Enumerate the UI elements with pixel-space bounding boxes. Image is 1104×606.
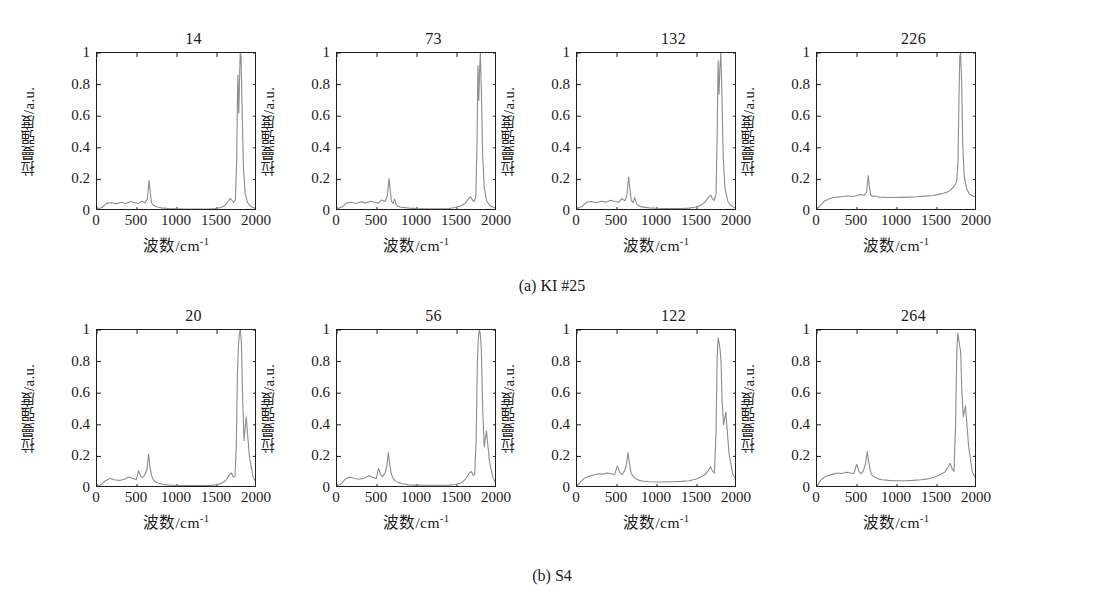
figure-row-a: 14拉曼强度/a.u.10.80.60.40.20050010001500200…	[0, 28, 1104, 276]
spectrum-trace	[337, 53, 496, 209]
x-tick-group: 0500100015002000	[816, 489, 976, 509]
y-tick-label: 0.2	[526, 171, 570, 186]
x-axis-label-exponent: -1	[680, 236, 690, 247]
x-tick-group: 0500100015002000	[336, 489, 496, 509]
tick-marks	[577, 53, 736, 210]
y-tick-label: 0.4	[526, 416, 570, 431]
y-tick-label: 0.8	[766, 76, 810, 91]
y-axis-label: 拉曼强度/a.u.	[740, 329, 758, 487]
x-axis-label-exponent: -1	[920, 513, 930, 524]
x-axis-label-text: 波数/cm	[143, 237, 200, 254]
raman-spectra-figure: 14拉曼强度/a.u.10.80.60.40.20050010001500200…	[0, 0, 1104, 606]
y-tick-label: 1	[766, 45, 810, 60]
tick-marks	[97, 53, 256, 210]
x-axis-label-exponent: -1	[440, 236, 450, 247]
spectrum-panel: 20拉曼强度/a.u.10.80.60.40.20050010001500200…	[18, 305, 268, 553]
y-tick-label: 0.6	[526, 385, 570, 400]
y-tick-label: 1	[286, 322, 330, 337]
x-axis-label: 波数/cm-1	[306, 513, 526, 533]
y-tick-group: 10.80.60.40.20	[278, 52, 330, 210]
y-axis-label: 拉曼强度/a.u.	[260, 52, 278, 210]
x-tick-group: 0500100015002000	[576, 212, 736, 232]
panel-title: 226	[816, 30, 1011, 48]
x-axis-label: 波数/cm-1	[786, 513, 1006, 533]
panel-title: 264	[816, 307, 1011, 325]
plot-area	[96, 52, 256, 210]
spectrum-trace	[577, 338, 736, 487]
y-tick-label: 0.8	[286, 76, 330, 91]
spectrum-plot	[337, 330, 496, 487]
y-tick-group: 10.80.60.40.20	[38, 52, 90, 210]
tick-marks	[577, 330, 736, 487]
x-tick-group: 0500100015002000	[576, 489, 736, 509]
y-tick-group: 10.80.60.40.20	[518, 329, 570, 487]
x-axis-label-exponent: -1	[200, 236, 210, 247]
y-tick-label: 0.6	[46, 385, 90, 400]
y-tick-label: 0.6	[286, 108, 330, 123]
plot-area	[576, 329, 736, 487]
x-tick-group: 0500100015002000	[96, 489, 256, 509]
spectrum-plot	[577, 330, 736, 487]
y-tick-label: 0.2	[286, 171, 330, 186]
spectrum-trace	[577, 53, 736, 209]
y-tick-group: 10.80.60.40.20	[38, 329, 90, 487]
spectrum-panel: 14拉曼强度/a.u.10.80.60.40.20050010001500200…	[18, 28, 268, 276]
plot-area	[576, 52, 736, 210]
spectrum-panel: 226拉曼强度/a.u.10.80.60.40.2005001000150020…	[738, 28, 988, 276]
tick-marks	[817, 53, 976, 210]
x-axis-label: 波数/cm-1	[546, 236, 766, 256]
spectrum-trace	[817, 53, 976, 209]
figure-row-b: 20拉曼强度/a.u.10.80.60.40.20050010001500200…	[0, 305, 1104, 553]
x-axis-label-exponent: -1	[920, 236, 930, 247]
spectrum-trace	[97, 53, 256, 209]
x-axis-label-exponent: -1	[200, 513, 210, 524]
spectrum-plot	[817, 53, 976, 210]
spectrum-panel: 264拉曼强度/a.u.10.80.60.40.2005001000150020…	[738, 305, 988, 553]
x-tick-group: 0500100015002000	[816, 212, 976, 232]
spectrum-panel: 56拉曼强度/a.u.10.80.60.40.20050010001500200…	[258, 305, 508, 553]
x-axis-label-exponent: -1	[440, 513, 450, 524]
y-tick-group: 10.80.60.40.20	[758, 329, 810, 487]
x-axis-label-text: 波数/cm	[863, 237, 920, 254]
y-axis-label: 拉曼强度/a.u.	[500, 329, 518, 487]
spectrum-trace	[817, 333, 976, 486]
plot-area	[816, 329, 976, 487]
x-axis-label-text: 波数/cm	[383, 237, 440, 254]
plot-area	[336, 52, 496, 210]
spectrum-plot	[337, 53, 496, 210]
x-tick-label: 2000	[949, 212, 1003, 229]
spectrum-plot	[97, 53, 256, 210]
x-axis-label-exponent: -1	[680, 513, 690, 524]
y-tick-label: 0.8	[526, 353, 570, 368]
spectrum-trace	[337, 330, 496, 486]
x-axis-label-text: 波数/cm	[143, 514, 200, 531]
plot-area	[96, 329, 256, 487]
y-axis-label: 拉曼强度/a.u.	[500, 52, 518, 210]
y-tick-label: 0.2	[526, 448, 570, 463]
y-tick-label: 0.4	[46, 139, 90, 154]
y-tick-label: 0.2	[766, 448, 810, 463]
y-tick-label: 0.6	[766, 385, 810, 400]
x-axis-label: 波数/cm-1	[786, 236, 1006, 256]
x-tick-group: 0500100015002000	[96, 212, 256, 232]
y-tick-label: 0.2	[46, 171, 90, 186]
y-tick-label: 0.4	[766, 416, 810, 431]
y-tick-label: 0.4	[286, 416, 330, 431]
spectrum-panel: 132拉曼强度/a.u.10.80.60.40.2005001000150020…	[498, 28, 748, 276]
y-tick-label: 0.4	[286, 139, 330, 154]
y-tick-label: 0.2	[766, 171, 810, 186]
x-axis-label-text: 波数/cm	[863, 514, 920, 531]
spectrum-plot	[97, 330, 256, 487]
y-tick-label: 1	[46, 45, 90, 60]
spectrum-panel: 122拉曼强度/a.u.10.80.60.40.2005001000150020…	[498, 305, 748, 553]
y-axis-label: 拉曼强度/a.u.	[740, 52, 758, 210]
y-tick-label: 0.6	[526, 108, 570, 123]
y-tick-label: 0.8	[766, 353, 810, 368]
plot-area	[336, 329, 496, 487]
x-tick-label: 2000	[949, 489, 1003, 506]
tick-marks	[337, 53, 496, 210]
tick-marks	[817, 330, 976, 487]
x-axis-label: 波数/cm-1	[66, 513, 286, 533]
y-tick-label: 0.6	[766, 108, 810, 123]
y-tick-group: 10.80.60.40.20	[518, 52, 570, 210]
